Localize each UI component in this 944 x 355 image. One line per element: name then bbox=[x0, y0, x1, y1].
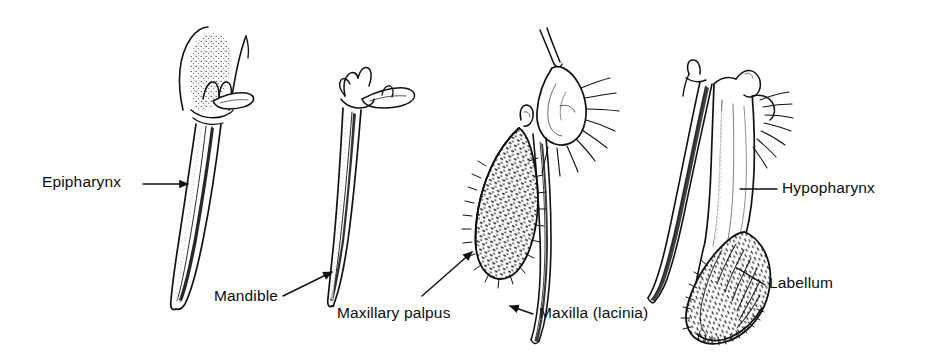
label-hypopharynx: Hypopharynx bbox=[782, 180, 875, 196]
epipharynx-drawing bbox=[171, 27, 254, 310]
mandible-leader bbox=[283, 272, 332, 296]
maxillary-leader bbox=[422, 252, 472, 296]
figure-plate: Epipharynx Mandible Maxillary palpus Max… bbox=[0, 0, 944, 355]
mandible-drawing bbox=[328, 67, 415, 306]
label-labellum: Labellum bbox=[769, 275, 833, 291]
label-maxillary-palpus: Maxillary palpus bbox=[337, 305, 451, 321]
label-epipharynx: Epipharynx bbox=[42, 174, 121, 190]
label-mandible: Mandible bbox=[214, 288, 278, 304]
maxilla-palpus-drawing bbox=[462, 28, 619, 344]
maxilla-leader bbox=[510, 306, 533, 314]
labium-labellum-drawing bbox=[648, 60, 793, 345]
label-maxilla-lacinia: Maxilla (lacinia) bbox=[539, 305, 648, 321]
mouthparts-illustration bbox=[0, 0, 944, 355]
